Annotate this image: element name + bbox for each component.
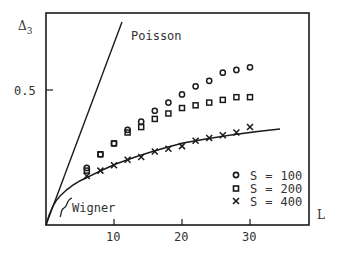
data-point	[247, 65, 252, 70]
data-point	[98, 152, 103, 157]
legend: S=100 S=200 S=400	[233, 169, 302, 209]
x-tick-label-30: 30	[242, 230, 256, 244]
data-point	[152, 116, 157, 121]
series-s400	[84, 124, 253, 179]
data-point	[247, 124, 253, 130]
y-tick-label-0.5: 0.5	[14, 84, 36, 98]
data-point	[166, 111, 171, 116]
data-point	[152, 108, 157, 113]
series-s200	[84, 95, 252, 173]
data-point	[166, 100, 171, 105]
circle-marker-icon	[233, 172, 238, 177]
data-point	[180, 106, 185, 111]
y-axis-label: Δ3	[18, 19, 33, 36]
legend-item-s200: S=200	[234, 182, 303, 196]
x-tick-label-20: 20	[174, 230, 188, 244]
legend-label-s100: S=100	[250, 169, 302, 183]
cross-marker-icon	[233, 198, 239, 204]
data-point	[220, 70, 225, 75]
x-axis-label: L	[317, 208, 325, 222]
wigner-label: Wigner	[72, 201, 115, 215]
data-point	[139, 119, 144, 124]
data-point	[112, 141, 117, 146]
data-point	[207, 100, 212, 105]
series-s100	[84, 65, 252, 171]
x-tick-label-10: 10	[106, 230, 120, 244]
data-point	[207, 78, 212, 83]
data-point	[179, 92, 184, 97]
legend-item-s100: S=100	[233, 169, 302, 183]
data-point	[179, 143, 185, 149]
wigner-brace	[60, 198, 72, 217]
data-point	[220, 97, 225, 102]
poisson-label: Poisson	[131, 29, 182, 43]
legend-label-s400: S=400	[250, 195, 302, 209]
data-point	[193, 84, 198, 89]
data-point	[234, 67, 239, 72]
data-point	[139, 125, 144, 130]
data-point	[193, 103, 198, 108]
delta3-chart: 0.5 10 20 30 Δ3 L Poisson Wigner S=100 S…	[0, 0, 339, 253]
legend-label-s200: S=200	[250, 182, 302, 196]
square-marker-icon	[234, 186, 239, 191]
data-point	[248, 95, 253, 100]
legend-item-s400: S=400	[233, 195, 302, 209]
data-point	[234, 95, 239, 100]
poisson-line	[46, 22, 122, 225]
